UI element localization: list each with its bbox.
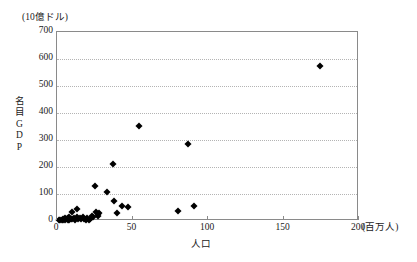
- plot-area: [56, 31, 358, 220]
- x-tick-mark: [207, 216, 208, 220]
- x-tick-label: 0: [54, 223, 59, 233]
- x-axis-title-text: 人口: [191, 239, 211, 249]
- data-point: [124, 203, 131, 210]
- x-tick-label: 50: [127, 223, 137, 233]
- y-tick-label: 100: [23, 188, 53, 198]
- x-axis-tick-labels: 050100150200: [56, 220, 358, 240]
- data-point: [185, 141, 192, 148]
- data-point: [174, 207, 181, 214]
- x-tick-mark: [283, 216, 284, 220]
- data-point: [91, 183, 98, 190]
- y-tick-label: 500: [23, 80, 53, 90]
- data-point: [316, 62, 323, 69]
- data-point: [114, 210, 121, 217]
- x-tick-mark: [56, 216, 57, 220]
- y-tick-label: 700: [23, 26, 53, 36]
- gridline: [57, 86, 357, 87]
- x-tick-label: 150: [275, 223, 289, 233]
- y-tick-label: 300: [23, 134, 53, 144]
- gridline: [57, 140, 357, 141]
- data-point: [111, 197, 118, 204]
- scatter-chart-figure: (10億ドル) 名 目 G D P 7006005004003002001000…: [0, 0, 417, 262]
- y-axis-unit-label: (10億ドル): [22, 9, 68, 23]
- data-point: [191, 203, 198, 210]
- data-point: [135, 122, 142, 129]
- x-axis-unit-label: (百万人): [362, 223, 398, 233]
- gridline: [57, 59, 357, 60]
- gridline: [57, 194, 357, 195]
- y-axis-tick-labels: 7006005004003002001000: [20, 31, 53, 220]
- x-axis-title: 人口: [0, 240, 417, 250]
- y-tick-label: 600: [23, 53, 53, 63]
- x-tick-mark: [358, 216, 359, 220]
- y-tick-label: 200: [23, 161, 53, 171]
- x-tick-label: 100: [200, 223, 214, 233]
- gridline: [57, 167, 357, 168]
- y-tick-label: 0: [23, 215, 53, 225]
- x-tick-mark: [132, 216, 133, 220]
- gridline: [57, 113, 357, 114]
- y-tick-label: 400: [23, 107, 53, 117]
